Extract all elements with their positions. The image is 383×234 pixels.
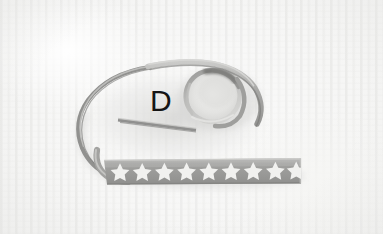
annotation-letter-d: D [150, 86, 172, 116]
photo-canvas: D [0, 0, 383, 234]
photo-vignette [0, 0, 383, 234]
